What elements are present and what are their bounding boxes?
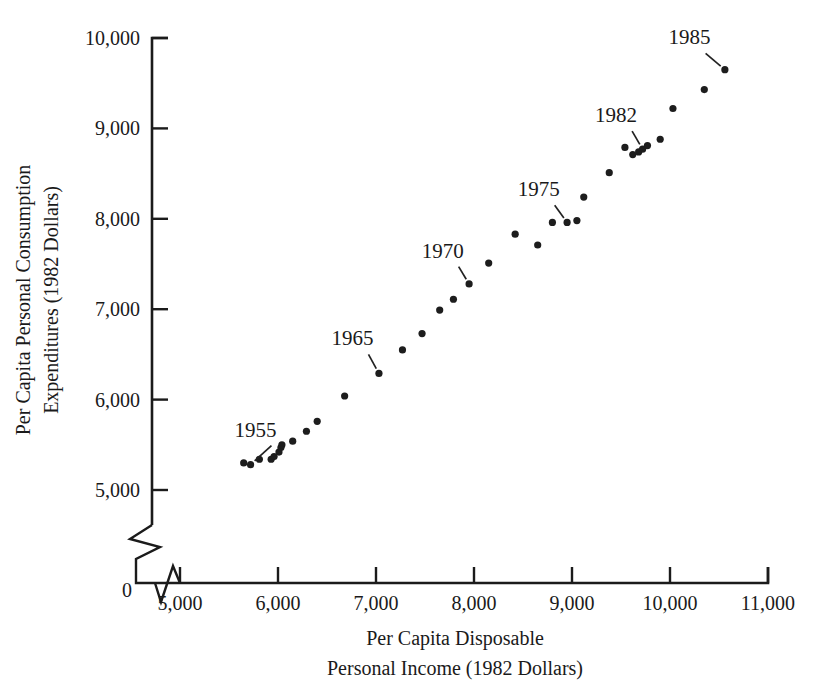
annotation-leader-1985 — [706, 53, 721, 66]
data-point-1979 — [621, 144, 628, 151]
annotation-label-1970: 1970 — [422, 239, 464, 263]
annotation-leader-1975 — [555, 205, 564, 218]
y-axis-line — [152, 38, 168, 525]
data-point-1967 — [418, 330, 425, 337]
data-point-1984 — [657, 136, 664, 143]
data-point-1962 — [303, 428, 310, 435]
data-point-1954 — [247, 461, 254, 468]
x-tick-labels: 5,0006,0007,0008,0009,00010,00011,000 — [158, 592, 796, 614]
data-point-1983 — [644, 142, 651, 149]
data-point-1964 — [341, 392, 348, 399]
data-point-1965 — [375, 370, 382, 377]
y-axis-title-line2: Expenditures (1982 Dollars) — [40, 186, 63, 414]
x-tick-label-7000: 7,000 — [354, 592, 399, 614]
y-tick-label-5000: 5,000 — [95, 479, 140, 501]
x-axis-title: Per Capita Disposable Personal Income (1… — [327, 627, 583, 680]
data-point-1961 — [289, 438, 296, 445]
annotation-label-1985: 1985 — [669, 25, 711, 49]
y-tick-marks — [152, 38, 168, 490]
annotation-leader-1982 — [632, 131, 640, 144]
y-axis-title-line1: Per Capita Personal Consumption — [12, 165, 35, 436]
y-tick-label-10000: 10,000 — [85, 27, 140, 49]
annotation-leader-1970 — [459, 267, 467, 280]
y-axis-title: Per Capita Personal Consumption Expendit… — [12, 165, 63, 436]
x-tick-label-6000: 6,000 — [256, 592, 301, 614]
year-annotations: 195519651970197519821985 — [234, 25, 720, 461]
x-tick-label-10000: 10,000 — [643, 592, 698, 614]
x-axis-title-line1: Per Capita Disposable — [366, 627, 544, 650]
annotation-label-1975: 1975 — [518, 177, 560, 201]
data-point-1973 — [549, 219, 556, 226]
x-tick-marks — [180, 567, 768, 583]
x-tick-label-8000: 8,000 — [452, 592, 497, 614]
annotation-leader-1965 — [368, 354, 376, 368]
y-axis-group: 5,0006,0007,0008,0009,00010,000 — [85, 27, 168, 583]
origin-tick-label: 0 — [122, 579, 132, 601]
annotation-label-1965: 1965 — [331, 326, 373, 350]
x-tick-label-11000: 11,000 — [741, 592, 795, 614]
data-point-1970 — [466, 280, 473, 287]
x-axis-title-line2: Personal Income (1982 Dollars) — [327, 657, 583, 680]
annotation-label-1955: 1955 — [234, 418, 276, 442]
data-point-1972 — [512, 231, 519, 238]
x-axis-group: 5,0006,0007,0008,0009,00010,00011,000 — [155, 566, 795, 614]
data-point-1971 — [485, 259, 492, 266]
data-point-1978 — [606, 169, 613, 176]
data-point-1977 — [580, 194, 587, 201]
scatter-chart-figure: 5,0006,0007,0008,0009,00010,000 5,0006,0… — [0, 0, 834, 695]
data-point-1968 — [436, 307, 443, 314]
data-point-1975 — [564, 219, 571, 226]
data-point-1963 — [314, 418, 321, 425]
data-point-series — [240, 66, 728, 468]
annotation-label-1982: 1982 — [595, 103, 637, 127]
y-tick-label-7000: 7,000 — [95, 298, 140, 320]
y-axis-break-icon — [130, 525, 160, 583]
x-tick-label-9000: 9,000 — [550, 592, 595, 614]
data-point-1974 — [534, 241, 541, 248]
y-tick-labels: 5,0006,0007,0008,0009,00010,000 — [85, 27, 140, 501]
y-tick-label-9000: 9,000 — [95, 117, 140, 139]
data-point-1986 — [701, 86, 708, 93]
data-point-1976 — [573, 217, 580, 224]
data-point-1985 — [669, 105, 676, 112]
data-point-1966 — [399, 346, 406, 353]
data-point-1987 — [721, 66, 728, 73]
x-axis-line — [155, 567, 768, 583]
data-point-1953 — [240, 459, 247, 466]
data-point-1969 — [450, 296, 457, 303]
data-point-1960 — [278, 441, 285, 448]
y-tick-label-8000: 8,000 — [95, 208, 140, 230]
y-tick-label-6000: 6,000 — [95, 389, 140, 411]
chart-canvas: 5,0006,0007,0008,0009,00010,000 5,0006,0… — [0, 0, 834, 695]
